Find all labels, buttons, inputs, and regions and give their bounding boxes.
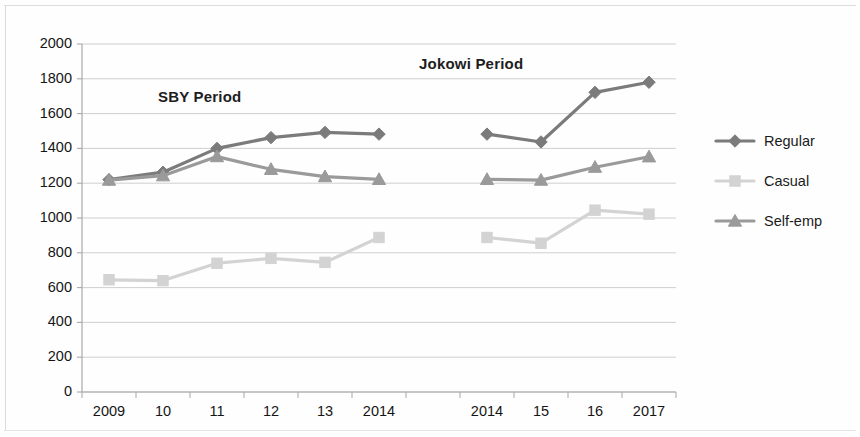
data-point-marker	[730, 176, 740, 186]
data-point-marker	[319, 126, 331, 138]
legend-label: Self-emp	[764, 213, 822, 229]
series-self-emp	[102, 150, 655, 185]
y-axis-tick-label: 1800	[20, 70, 72, 86]
x-axis-tick-label: 10	[136, 403, 190, 419]
x-axis-tick-label: 11	[190, 403, 244, 419]
legend-marker-diamond-icon	[714, 132, 756, 150]
data-point-marker	[104, 275, 114, 285]
chart-figure: SBY Period Jokowi Period 200018001600140…	[0, 0, 860, 437]
x-axis-tick-label: 2014	[460, 403, 514, 419]
data-point-marker	[482, 232, 492, 242]
y-axis-tick-label: 2000	[20, 35, 72, 51]
data-point-marker	[481, 128, 493, 140]
y-axis-tick-label: 600	[20, 279, 72, 295]
x-axis-tick-label: 16	[568, 403, 622, 419]
series-line	[487, 157, 649, 180]
annotation-sby-period: SBY Period	[158, 88, 241, 105]
y-axis-tick-label: 1600	[20, 105, 72, 121]
y-axis-tick-label: 1000	[20, 209, 72, 225]
data-point-marker	[590, 205, 600, 215]
x-axis-tick-label: 15	[514, 403, 568, 419]
data-point-marker	[373, 128, 385, 140]
data-point-marker	[212, 258, 222, 268]
x-axis-tick-label: 13	[298, 403, 352, 419]
x-axis-tick-label: 2014	[352, 403, 406, 419]
data-point-marker	[158, 275, 168, 285]
y-axis-tick-label: 1200	[20, 174, 72, 190]
legend-marker-square-icon	[714, 172, 756, 190]
legend-label: Casual	[764, 173, 809, 189]
data-point-marker	[374, 232, 384, 242]
y-axis-tick-label: 200	[20, 348, 72, 364]
annotation-jokowi-period: Jokowi Period	[419, 55, 523, 72]
data-point-marker	[643, 76, 655, 88]
data-series-layer	[102, 76, 655, 286]
series-line	[487, 82, 649, 142]
legend-marker-triangle-icon	[714, 212, 756, 230]
series-line	[487, 210, 649, 243]
legend-label: Regular	[764, 133, 815, 149]
legend-item-self-emp[interactable]: Self-emp	[714, 212, 822, 230]
data-point-marker	[644, 209, 654, 219]
y-axis-tick-label: 800	[20, 244, 72, 260]
series-line	[109, 132, 379, 179]
data-point-marker	[536, 238, 546, 248]
data-point-marker	[642, 150, 655, 162]
data-point-marker	[729, 135, 741, 147]
data-point-marker	[266, 253, 276, 263]
x-axis-tick-label: 2009	[82, 403, 136, 419]
data-point-marker	[265, 131, 277, 143]
legend-item-regular[interactable]: Regular	[714, 132, 815, 150]
series-line	[109, 157, 379, 181]
x-axis-ticks	[82, 392, 676, 398]
series-casual	[104, 205, 654, 286]
y-axis-tick-label: 400	[20, 313, 72, 329]
series-line	[109, 238, 379, 281]
y-axis-tick-label: 0	[20, 383, 72, 399]
data-point-marker	[320, 257, 330, 267]
y-axis-tick-label: 1400	[20, 139, 72, 155]
x-axis-tick-label: 12	[244, 403, 298, 419]
legend-item-casual[interactable]: Casual	[714, 172, 809, 190]
x-axis-tick-label: 2017	[622, 403, 676, 419]
